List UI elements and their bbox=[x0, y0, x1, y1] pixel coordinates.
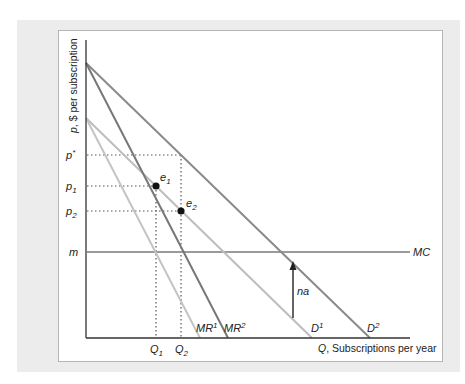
mr1-curve bbox=[86, 118, 200, 338]
na-arrow bbox=[290, 261, 297, 318]
x-axis-title: Q, Subscriptions per year bbox=[318, 342, 437, 354]
mr2-label: MR2 bbox=[224, 321, 246, 334]
x-tick-q1: Q1 bbox=[150, 343, 163, 358]
y-tick-p2: p2 bbox=[65, 205, 77, 220]
mr2-curve bbox=[86, 63, 228, 338]
mc-label: MC bbox=[413, 246, 430, 258]
y-tick-m: m bbox=[69, 246, 78, 258]
d1-curve bbox=[86, 118, 312, 338]
na-label: na bbox=[297, 285, 309, 297]
y-tick-pstar: p* bbox=[65, 148, 76, 161]
e1-point bbox=[152, 182, 159, 189]
d2-label: D2 bbox=[367, 321, 380, 334]
e1-label: e1 bbox=[160, 171, 171, 186]
economics-diagram: na e1 e2 p* p1 p2 m Q1 Q2 MR1 MR2 D1 D2 … bbox=[0, 0, 465, 384]
y-axis-title: p, $ per subscription bbox=[67, 38, 79, 134]
e2-label: e2 bbox=[186, 197, 197, 212]
y-tick-p1: p1 bbox=[65, 180, 77, 195]
x-tick-q2: Q2 bbox=[175, 343, 189, 358]
e2-point bbox=[177, 207, 184, 214]
d1-label: D1 bbox=[311, 321, 323, 334]
mr1-label: MR1 bbox=[196, 321, 218, 334]
